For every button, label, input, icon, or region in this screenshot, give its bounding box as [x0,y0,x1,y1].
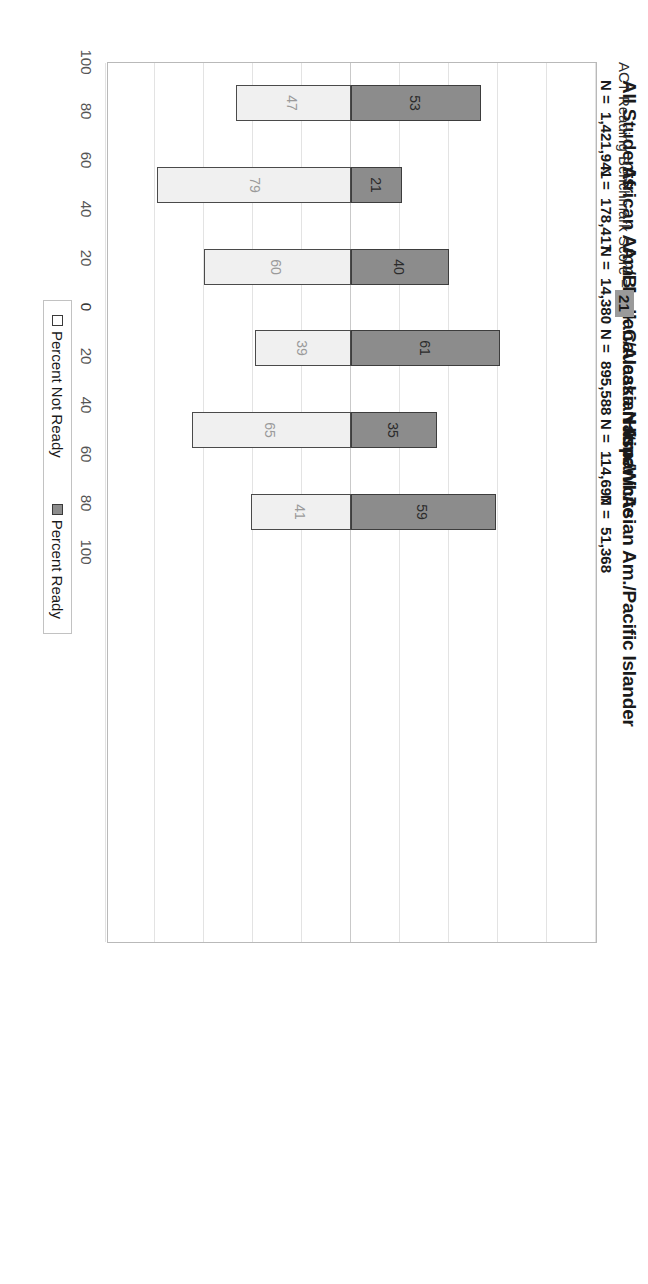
bar-group: 5347 [108,85,596,121]
bar-value-label: 59 [415,495,429,529]
axis-tick-label: 20 [78,250,95,267]
bar-percent-ready[interactable]: 21 [351,167,402,203]
bar-value-label: 21 [369,168,383,202]
bar-value-label: 60 [270,250,284,284]
axis-title: ACT Reading Benchmark Score =21 [604,62,634,943]
axis-title-text: ACT Reading Benchmark Score = [616,62,633,288]
bar-percent-not-ready[interactable]: 79 [157,167,351,203]
bar-percent-ready[interactable]: 61 [351,330,500,366]
legend-label-ready: Percent Ready [49,520,66,619]
bar-percent-ready[interactable]: 59 [351,494,496,530]
legend-item-not-ready: Percent Not Ready [49,315,66,458]
gridline [105,63,106,942]
bar-group: 4060 [108,249,596,285]
legend-swatch-ready-icon [52,504,63,515]
axis-tick-label: 40 [78,201,95,218]
bar-percent-not-ready[interactable]: 47 [236,85,351,121]
legend-label-not-ready: Percent Not Ready [49,331,66,458]
chart-legend: Percent Not Ready Percent Ready [43,300,72,634]
bar-percent-not-ready[interactable]: 41 [251,494,351,530]
axis-tick-label: 60 [78,152,95,169]
bar-value-label: 53 [408,86,422,120]
bar-group: 5941 [108,494,596,530]
axis-tick-label: 80 [78,103,95,120]
bar-value-label: 41 [293,495,307,529]
bar-value-label: 35 [386,413,400,447]
bar-value-label: 47 [285,86,299,120]
benchmark-score-badge: 21 [615,290,634,317]
axis-tick-label: 60 [78,446,95,463]
bar-percent-not-ready[interactable]: 65 [192,412,351,448]
bar-percent-not-ready[interactable]: 60 [204,249,351,285]
chart-stage: All StudentsN = 1,421,941% ready = 53Afr… [0,0,648,1284]
bar-value-label: 79 [248,168,262,202]
bar-value-label: 61 [418,331,432,365]
bar-value-label: 40 [392,250,406,284]
bar-group: 6139 [108,330,596,366]
bar-percent-ready[interactable]: 40 [351,249,449,285]
bar-value-label: 65 [263,413,277,447]
bar-percent-ready[interactable]: 53 [351,85,481,121]
bar-group: 3565 [108,412,596,448]
axis-tick-label: 100 [78,49,95,74]
legend-swatch-not-ready-icon [52,315,63,326]
bar-percent-not-ready[interactable]: 39 [255,330,351,366]
bar-value-label: 39 [295,331,309,365]
axis-tick-label: 80 [78,495,95,512]
bar-group: 2179 [108,167,596,203]
bar-percent-ready[interactable]: 35 [351,412,437,448]
axis-tick-label: 40 [78,397,95,414]
axis-tick-label: 20 [78,348,95,365]
axis-tick-label: 0 [78,303,95,311]
legend-item-ready: Percent Ready [49,504,66,619]
axis-tick-label: 100 [78,539,95,564]
plot-area: 534721794060613935655941 [107,62,597,943]
